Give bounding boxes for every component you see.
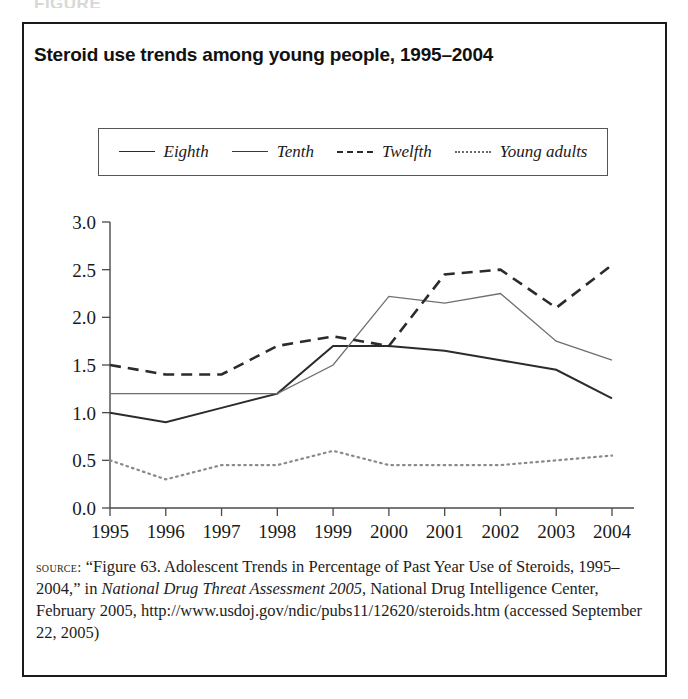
data-series-lines xyxy=(110,265,612,480)
y-axis-tick-label: 3.0 xyxy=(72,212,96,233)
legend-label-young-adults: Young adults xyxy=(500,142,588,162)
legend-item-young-adults[interactable]: Young adults xyxy=(455,142,588,162)
legend-label-eighth: Eighth xyxy=(164,142,209,162)
series-line-tenth xyxy=(110,294,612,394)
source-publication-title: National Drug Threat Assessment 2005 xyxy=(102,579,362,598)
figure-number-remnant: FIGURE xyxy=(34,0,184,8)
legend-label-tenth: Tenth xyxy=(277,142,314,162)
x-axis-tick-labels: 1995199619971998199920002001200220032004 xyxy=(91,521,632,542)
source-note: source: “Figure 63. Adolescent Trends in… xyxy=(36,556,646,644)
x-axis-tick-label: 1998 xyxy=(258,521,296,542)
x-axis-tick-label: 2004 xyxy=(593,521,632,542)
legend-line-solid-icon xyxy=(232,147,268,157)
x-axis-tick-label: 1995 xyxy=(91,521,129,542)
legend-label-twelfth: Twelfth xyxy=(382,142,432,162)
legend-item-tenth[interactable]: Tenth xyxy=(232,142,314,162)
y-axis-tick-label: 0.5 xyxy=(72,450,96,471)
y-axis-tick-label: 1.5 xyxy=(72,355,96,376)
y-axis-tick-label: 0.0 xyxy=(72,498,96,519)
x-axis-tick-label: 2003 xyxy=(537,521,575,542)
legend-entries: Eighth Tenth Twelfth Young adults xyxy=(99,129,607,175)
line-chart-svg: 0.00.51.01.52.02.53.0 199519961997199819… xyxy=(22,190,667,545)
chart-legend: Eighth Tenth Twelfth Young adults xyxy=(98,128,608,176)
y-axis-tick-label: 2.0 xyxy=(72,307,96,328)
x-axis-tick-label: 2000 xyxy=(370,521,408,542)
x-axis-tick-label: 1996 xyxy=(147,521,185,542)
legend-line-dashed-icon xyxy=(337,147,373,157)
legend-item-eighth[interactable]: Eighth xyxy=(119,142,209,162)
x-axis-tick-label: 1999 xyxy=(314,521,352,542)
chart-plot-area: 0.00.51.01.52.02.53.0 199519961997199819… xyxy=(22,190,667,545)
x-axis-tick-label: 2001 xyxy=(426,521,464,542)
x-axis-tick-label: 1997 xyxy=(203,521,241,542)
legend-item-twelfth[interactable]: Twelfth xyxy=(337,142,432,162)
series-line-twelfth xyxy=(110,265,612,375)
series-line-eighth xyxy=(110,346,612,422)
legend-line-dotted-icon xyxy=(455,147,491,157)
x-axis-tick-marks xyxy=(110,508,612,516)
y-axis-tick-labels: 0.00.51.01.52.02.53.0 xyxy=(72,212,96,519)
y-axis-tick-marks xyxy=(102,222,110,508)
series-line-young-adults xyxy=(110,451,612,480)
y-axis-tick-label: 2.5 xyxy=(72,260,96,281)
page-title: Steroid use trends among young people, 1… xyxy=(34,44,493,66)
source-label: source: xyxy=(36,559,82,575)
y-axis-tick-label: 1.0 xyxy=(72,403,96,424)
x-axis-tick-label: 2002 xyxy=(481,521,519,542)
legend-line-solid-icon xyxy=(119,147,155,157)
